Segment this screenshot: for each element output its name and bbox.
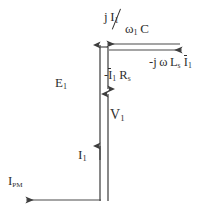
R-symbol: R <box>119 68 127 82</box>
I-overbar: I <box>108 68 112 82</box>
omega-symbol: ω <box>159 55 167 69</box>
I-subscript: 1 <box>188 61 192 70</box>
emf-label: E1 <box>55 76 67 91</box>
I-overbar: I <box>184 55 188 69</box>
R-subscript: s <box>128 74 131 83</box>
fraction: j I1 ω1 C <box>104 10 166 40</box>
omega-symbol: ω <box>125 21 134 36</box>
capacitive-drop-label: j I1 ω1 C <box>104 10 166 42</box>
j-symbol: j <box>104 9 108 24</box>
L-symbol: L <box>170 55 178 69</box>
inductive-drop-label: -j ω Ls I1 <box>149 55 192 69</box>
I-symbol: I <box>184 55 188 69</box>
minus-j-symbol: -j <box>149 55 157 69</box>
PM-subscript: PM <box>12 181 22 189</box>
resistive-drop-label: -I1 Rs <box>104 68 131 82</box>
I-subscript: 1 <box>112 74 116 83</box>
terminal-voltage-label: V1 <box>110 108 124 123</box>
I-symbol: I <box>108 68 112 82</box>
pm-current-label: IPM <box>8 174 23 189</box>
L-subscript: s <box>178 61 181 70</box>
V-subscript: 1 <box>120 113 124 123</box>
V-symbol: V <box>110 107 120 122</box>
E-symbol: E <box>55 75 63 90</box>
C-symbol: C <box>140 21 149 36</box>
I-subscript: 1 <box>83 154 87 163</box>
current-label: I1 <box>78 148 87 163</box>
fraction-denominator: ω1 C <box>125 22 149 37</box>
omega-subscript: 1 <box>134 28 138 37</box>
E-subscript: 1 <box>63 82 67 91</box>
